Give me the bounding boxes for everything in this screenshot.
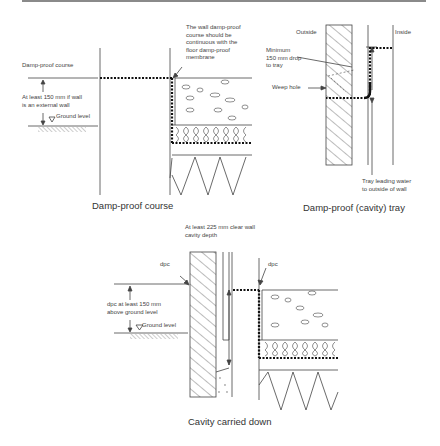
height-note: At least 150 mm if wall is an external w… (22, 94, 82, 109)
cavity-diagram (114, 252, 338, 410)
caption-dpc: Damp-proof course (92, 200, 173, 211)
dpc-label: Damp-proof course (22, 62, 73, 70)
continuity-note: The wall damp-proof course should be con… (186, 24, 241, 62)
tray-note: Tray leading water to outside of wall (362, 178, 411, 193)
dpc-right-label: dpc (268, 261, 278, 269)
height-note-cavity: dpc at least 150 mm above ground level (107, 301, 161, 316)
ground-level-label-cavity: Ground level (142, 322, 176, 330)
dpc-left-label: dpc (160, 261, 170, 269)
weep-hole-label: Weep hole (272, 84, 301, 92)
ground-level-label: Ground level (56, 113, 90, 121)
cavity-depth-label: At least 225 mm clear wall cavity depth (185, 224, 255, 239)
dpc-diagram (28, 48, 252, 195)
outside-label: Outside (296, 29, 317, 37)
tray-diagram (297, 25, 393, 175)
caption-tray: Damp-proof (cavity) tray (303, 202, 405, 213)
min-drop-label: Minimum 150 mm drop to tray (266, 47, 301, 70)
inside-label: Inside (395, 29, 411, 37)
caption-cavity: Cavity carried down (188, 416, 271, 427)
